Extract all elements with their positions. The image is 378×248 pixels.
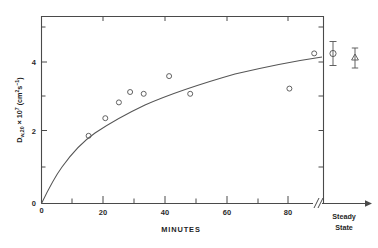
top-axis-ticks (103, 17, 288, 22)
y-axis-title: Dw,20 × 107 (cm2s−1) (14, 77, 25, 143)
right-axis-ticks (319, 27, 324, 167)
steady-state-label-line1: Steady (332, 212, 356, 221)
data-point (167, 74, 172, 79)
y-axis-units-close: ) (15, 77, 24, 80)
data-point (287, 86, 292, 91)
data-point (103, 116, 108, 121)
scatter-plot: 0 2 4 0 20 40 60 80 MINUTES Dw,20 × 107 … (0, 0, 378, 248)
x-axis-arrowhead (365, 200, 372, 207)
x-tick-label-40: 40 (161, 208, 169, 217)
y-tick-label-2: 2 (32, 127, 36, 136)
x-tick-label-0: 0 (39, 206, 43, 215)
x-axis-group (42, 198, 373, 208)
data-point (188, 91, 193, 96)
data-point (116, 100, 121, 105)
data-point (141, 91, 146, 96)
steady-state-label-line2: State (335, 223, 353, 232)
x-tick-label-60: 60 (223, 208, 231, 217)
fit-curve (42, 57, 323, 204)
x-tick-label-80: 80 (284, 208, 292, 217)
x-tick-label-20: 20 (99, 208, 107, 217)
x-axis-ticks (72, 196, 288, 204)
figure-container: 0 2 4 0 20 40 60 80 MINUTES Dw,20 × 107 … (0, 0, 378, 248)
y-tick-label-0: 0 (32, 199, 36, 208)
y-axis-times: × 10 (15, 110, 24, 126)
steady-state-point-circle (330, 42, 337, 66)
y-tick-label-4: 4 (32, 58, 37, 67)
plot-frame (42, 16, 325, 204)
y-axis-subscript: w,20 (19, 126, 25, 138)
data-point (312, 51, 317, 56)
steady-state-point-triangle (352, 48, 359, 68)
svg-text:Dw,20 × 107 (cm2s−1): Dw,20 × 107 (cm2s−1) (14, 77, 25, 143)
data-point (128, 90, 133, 95)
y-axis-ticks (42, 27, 48, 204)
x-axis-title: MINUTES (161, 225, 201, 234)
y-axis-units-open: (cm (15, 93, 24, 108)
steady-state-markers (330, 42, 359, 69)
